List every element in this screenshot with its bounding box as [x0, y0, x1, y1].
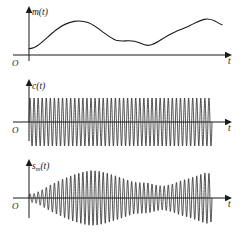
modulated-x-axis-label: t [228, 199, 231, 209]
carrier-origin-label: O [12, 125, 19, 135]
panel-message: m(t) O t [12, 6, 232, 68]
figure-canvas: m(t) O t c(t) O t sm(t) O t [0, 0, 242, 236]
carrier-x-axis-label: t [228, 123, 231, 133]
modulated-origin-label: O [12, 201, 19, 211]
panel-carrier: c(t) O t [12, 79, 232, 146]
message-curve [29, 19, 222, 49]
modulated-y-axis-label-tail: (t) [40, 161, 49, 172]
carrier-y-axis-label: c(t) [32, 81, 45, 92]
panel-modulated: sm(t) O t [12, 159, 232, 225]
modulated-y-axis-label: sm(t) [32, 161, 49, 172]
message-y-axis-label: m(t) [32, 7, 48, 18]
am-modulation-figure: m(t) O t c(t) O t sm(t) O t [0, 0, 242, 236]
message-x-axis-label: t [228, 56, 231, 66]
message-origin-label: O [12, 58, 19, 68]
